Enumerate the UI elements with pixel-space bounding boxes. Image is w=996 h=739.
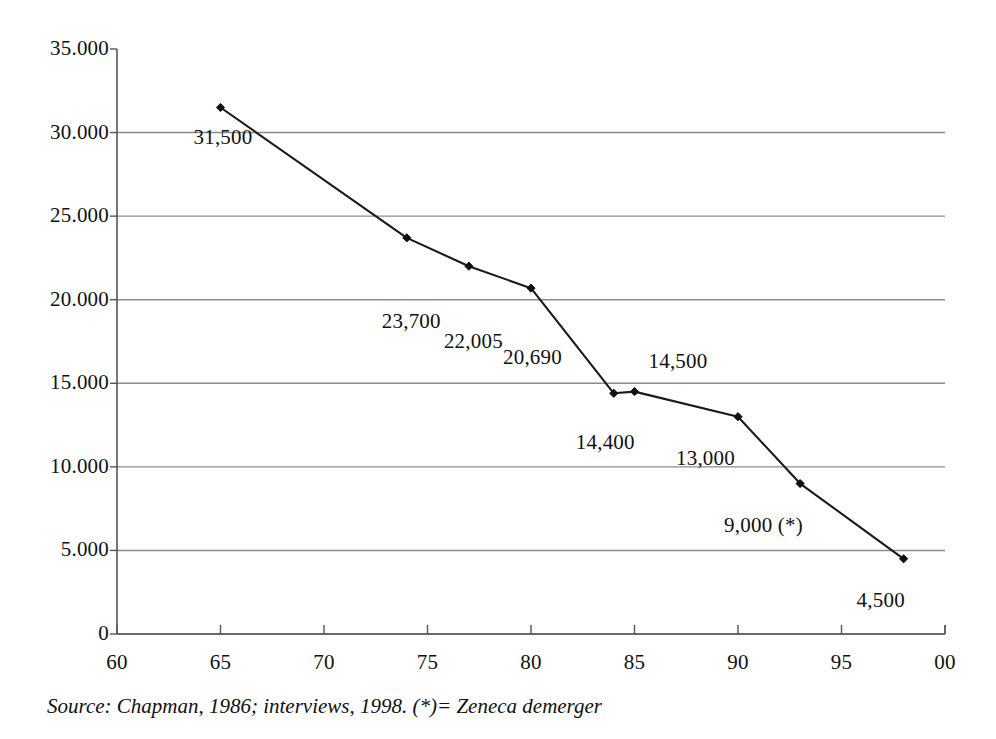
x-axis-tick-label: 70 [284, 650, 364, 675]
x-axis-tick-label: 80 [491, 650, 571, 675]
data-point-label: 13,000 [676, 446, 735, 471]
x-axis-ticks [117, 625, 945, 634]
y-axis-tick-label: 10.000 [50, 454, 109, 479]
data-point-label: 4,500 [857, 588, 905, 613]
x-axis-tick-label: 60 [77, 650, 157, 675]
data-markers [216, 103, 907, 562]
data-point-marker [630, 388, 638, 396]
y-axis-tick-label: 0 [98, 621, 109, 646]
x-axis-tick-label: 00 [905, 650, 985, 675]
data-point-label: 14,400 [576, 430, 635, 455]
y-axis-ticks [110, 49, 117, 634]
source-note: Source: Chapman, 1986; interviews, 1998.… [47, 694, 602, 719]
y-axis-tick-label: 35.000 [50, 36, 109, 61]
data-line [221, 108, 904, 559]
y-axis-tick-label: 25.000 [50, 203, 109, 228]
line-chart-plot [0, 0, 996, 739]
y-axis-tick-label: 20.000 [50, 287, 109, 312]
data-point-label: 23,700 [382, 309, 441, 334]
y-axis-tick-label: 5.000 [61, 537, 109, 562]
x-axis-tick-label: 90 [698, 650, 778, 675]
data-point-label: 14,500 [649, 349, 708, 374]
series-polyline [221, 108, 904, 559]
data-point-marker [465, 262, 473, 270]
data-point-label: 9,000 (*) [724, 513, 803, 538]
x-axis-tick-label: 65 [181, 650, 261, 675]
y-axis-tick-label: 30.000 [50, 120, 109, 145]
x-axis-tick-label: 85 [595, 650, 675, 675]
gridlines [117, 133, 945, 634]
y-axis-tick-label: 15.000 [50, 370, 109, 395]
data-point-label: 20,690 [503, 345, 562, 370]
data-point-label: 31,500 [194, 125, 253, 150]
chart-figure: 35.00030.00025.00020.00015.00010.0005.00… [0, 0, 996, 739]
x-axis-tick-label: 75 [388, 650, 468, 675]
data-point-label: 22,005 [444, 329, 503, 354]
x-axis-tick-label: 95 [802, 650, 882, 675]
